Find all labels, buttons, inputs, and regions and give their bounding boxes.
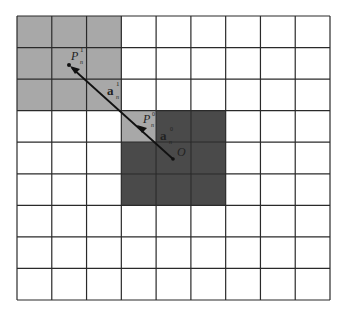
- svg-text:P: P: [142, 112, 151, 126]
- svg-text:0: 0: [152, 111, 155, 117]
- dark-cell: [191, 111, 226, 143]
- label-origin: O: [177, 145, 186, 159]
- svg-text:n: n: [169, 139, 172, 145]
- svg-text:n: n: [116, 94, 119, 100]
- dark-cell: [191, 142, 226, 174]
- svg-text:0: 0: [170, 126, 173, 132]
- svg-text:a: a: [107, 83, 114, 98]
- light-cell: [52, 79, 87, 111]
- svg-text:n: n: [80, 59, 83, 65]
- point-origin: [171, 157, 175, 161]
- light-cell: [17, 48, 52, 80]
- light-cell: [17, 16, 52, 48]
- dark-cell: [121, 174, 156, 206]
- svg-text:1: 1: [80, 46, 84, 54]
- dark-cell: [156, 174, 191, 206]
- point-p1: [67, 63, 71, 67]
- dark-cell: [191, 174, 226, 206]
- svg-text:P: P: [70, 49, 79, 63]
- light-cell: [87, 48, 122, 80]
- light-cell: [87, 16, 122, 48]
- svg-text:1: 1: [116, 80, 120, 88]
- grid-diagram: P 1 n a 1 n P 0 n a 0 n O: [0, 0, 346, 317]
- svg-text:a: a: [160, 128, 167, 143]
- light-cell: [52, 16, 87, 48]
- dark-cell: [121, 142, 156, 174]
- light-cell: [17, 79, 52, 111]
- svg-text:n: n: [151, 122, 154, 128]
